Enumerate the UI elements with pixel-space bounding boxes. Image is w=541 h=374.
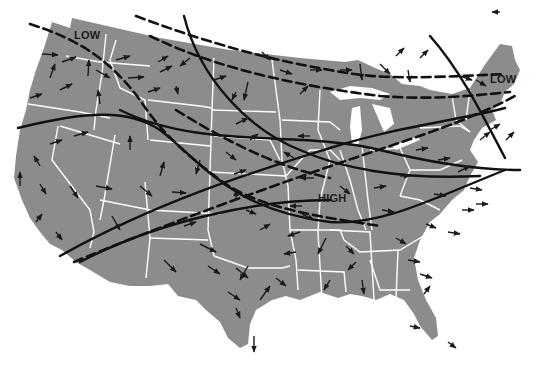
- low-pressure-label-west: LOW: [74, 29, 100, 41]
- low-pressure-label-east: LOW: [490, 73, 516, 85]
- us-landmass: [14, 18, 520, 348]
- high-pressure-label: HIGH: [318, 192, 346, 204]
- weather-map: [0, 0, 541, 374]
